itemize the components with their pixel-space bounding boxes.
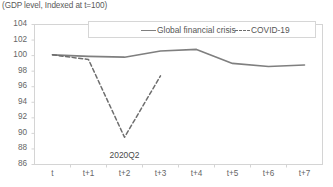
chart-container: (GDP level, Indexed at t=100) 1041021009… — [0, 0, 333, 187]
annotation-trough-label: 2020Q2 — [110, 150, 140, 160]
dashed-line-swatch — [235, 26, 250, 34]
x-axis-tick-label: t — [51, 169, 53, 178]
plot-border — [35, 25, 323, 165]
x-axis-tick-label: t+7 — [299, 169, 311, 178]
legend-item-covid-19: COVID-19 — [235, 25, 290, 35]
legend-item-global-financial-crisis: Global financial crisis — [141, 25, 236, 35]
x-axis-tick-label: t+1 — [83, 169, 95, 178]
x-axis-tick-label: t+2 — [119, 169, 131, 178]
series-line-covid-19 — [53, 55, 161, 137]
chart-legend: Global financial crisis COVID-19 — [88, 21, 316, 38]
legend-label-global-financial-crisis: Global financial crisis — [157, 25, 236, 35]
solid-line-swatch — [141, 26, 156, 34]
x-axis-tick-label: t+6 — [263, 169, 275, 178]
x-axis-tick-label: t+4 — [191, 169, 203, 178]
x-axis-tick-label: t+3 — [155, 169, 167, 178]
plot-frame — [35, 25, 323, 165]
legend-label-covid-19: COVID-19 — [251, 25, 290, 35]
x-axis-tick-label: t+5 — [227, 169, 239, 178]
data-series-group — [53, 49, 305, 137]
